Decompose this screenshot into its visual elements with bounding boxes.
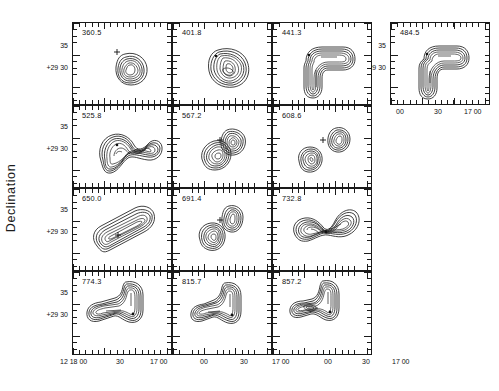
panel-691-4[interactable]: 691.4 xyxy=(172,188,272,271)
panel-815-7[interactable]: 815.7 xyxy=(172,271,272,355)
tick-marks-bottom-major xyxy=(73,98,171,104)
panel-567-2[interactable]: 567.2 xyxy=(172,105,272,188)
tick-marks-left-major xyxy=(173,23,180,104)
panel-label: 774.3 xyxy=(82,277,102,286)
panel-label: 484.5 xyxy=(400,28,420,37)
reference-dot-marker xyxy=(231,314,234,317)
reference-dot-marker xyxy=(132,313,135,316)
tick-marks-right-major xyxy=(364,106,371,187)
tick-marks-left-major xyxy=(273,189,280,270)
panel-label: 650.0 xyxy=(82,194,102,203)
tick-marks-right xyxy=(267,189,271,270)
reference-dot-marker xyxy=(308,54,311,57)
contour-lines xyxy=(294,210,360,241)
y-tick-label-35: 35 xyxy=(60,42,68,49)
reference-cross-marker xyxy=(217,137,223,143)
x-tick-label-30: 30 xyxy=(240,358,248,365)
reference-cross-marker xyxy=(320,137,326,143)
tick-marks-bottom-major xyxy=(273,348,371,354)
tick-marks-bottom-major xyxy=(273,98,371,104)
tick-marks-right xyxy=(267,272,271,354)
reference-dot-marker xyxy=(215,55,218,58)
tick-marks-left-major xyxy=(273,106,280,187)
panel-label: 857.2 xyxy=(282,277,302,286)
contour-lines xyxy=(94,206,155,252)
panel-label: 525.8 xyxy=(82,111,102,120)
tick-marks-right xyxy=(167,106,171,187)
panel-525-8[interactable]: 525.8 xyxy=(72,105,172,188)
tick-marks-left-major xyxy=(273,23,280,104)
x-tick-label-00: 00 xyxy=(396,108,404,115)
tick-marks-right xyxy=(167,189,171,270)
tick-marks-bottom-major xyxy=(73,181,171,187)
y-tick-label-29-30: +29 30 xyxy=(46,64,68,71)
panel-608-6[interactable]: 608.6 xyxy=(272,105,372,188)
panel-857-2[interactable]: 857.2 xyxy=(272,271,372,355)
tick-marks-bottom-major xyxy=(173,98,271,104)
tick-marks-left-major xyxy=(173,272,180,354)
channel-map-figure: Declination 35 +29 30 35 +29 30 35 +29 3… xyxy=(0,0,499,391)
tick-marks-right xyxy=(167,23,171,104)
y-tick-label-35: 35 xyxy=(378,42,386,49)
tick-marks-left-major xyxy=(391,23,398,104)
tick-marks-left-major xyxy=(73,189,80,270)
panel-label: 691.4 xyxy=(182,194,202,203)
panel-650-0[interactable]: 650.0 xyxy=(72,188,172,271)
x-axis-labels-panel-4: 00 30 17 00 xyxy=(390,108,490,120)
panel-label: 608.6 xyxy=(282,111,302,120)
y-tick-label-35: 35 xyxy=(60,123,68,130)
x-tick-label-00: 00 xyxy=(324,358,332,365)
y-tick-labels-row-3: 35 +29 30 xyxy=(22,188,68,271)
tick-marks-right-major xyxy=(364,272,371,354)
panel-401-8[interactable]: 401.8 xyxy=(172,22,272,105)
x-tick-label-17-00: 17 00 xyxy=(272,358,290,365)
panel-441-3[interactable]: 441.3 xyxy=(272,22,372,105)
contour-lines xyxy=(290,281,339,321)
x-axis-labels-main: 12 18 00 30 17 00 00 30 17 00 00 30 17 0… xyxy=(72,358,372,370)
y-tick-labels-row-1: 35 +29 30 xyxy=(22,22,68,105)
x-tick-label-17-00: 17 00 xyxy=(392,358,410,365)
panel-label: 441.3 xyxy=(282,28,302,37)
y-tick-label-35: 35 xyxy=(60,289,68,296)
contour-lines xyxy=(87,282,143,323)
panel-label: 360.5 xyxy=(82,28,102,37)
tick-marks-bottom-major xyxy=(273,181,371,187)
tick-marks-left-major xyxy=(173,189,180,270)
panel-774-3[interactable]: 774.3 xyxy=(72,271,172,355)
tick-marks-bottom-major xyxy=(173,181,271,187)
panel-484-5[interactable]: 484.5 xyxy=(390,22,490,105)
panel-732-8[interactable]: 732.8 xyxy=(272,188,372,271)
tick-marks-bottom-major xyxy=(173,264,271,270)
tick-marks-left-major xyxy=(73,23,80,104)
contour-lines xyxy=(191,283,241,324)
tick-marks-right-major xyxy=(364,189,371,270)
x-tick-label-30: 30 xyxy=(116,358,124,365)
reference-dot-marker xyxy=(426,53,429,56)
x-tick-label-12-18-00: 12 18 00 xyxy=(60,358,87,365)
reference-cross-marker xyxy=(114,49,120,55)
y-tick-labels-row-4: 35 +29 30 xyxy=(22,271,68,355)
y-tick-labels-row-2: 35 +29 30 xyxy=(22,105,68,188)
contour-lines xyxy=(208,49,248,88)
tick-marks-right xyxy=(167,272,171,354)
y-tick-label-35: 35 xyxy=(60,206,68,213)
contour-lines xyxy=(299,128,350,173)
x-tick-label-17-00: 17 00 xyxy=(464,108,482,115)
tick-marks-bottom-major xyxy=(73,264,171,270)
tick-marks-bottom-major xyxy=(273,264,371,270)
panel-label: 567.2 xyxy=(182,111,202,120)
contour-lines xyxy=(116,53,147,85)
panel-label: 732.8 xyxy=(282,194,302,203)
y-tick-label-29-30: +29 30 xyxy=(46,311,68,318)
panel-grid: 360.5 4 xyxy=(72,22,372,355)
tick-marks-right xyxy=(485,23,489,104)
tick-marks-left-major xyxy=(273,272,280,354)
tick-marks-left-major xyxy=(73,106,80,187)
tick-marks-bottom-major xyxy=(173,348,271,354)
reference-dot-marker xyxy=(325,231,328,234)
panel-360-5[interactable]: 360.5 xyxy=(72,22,172,105)
y-tick-label-29-30: +29 30 xyxy=(46,228,68,235)
reference-dot-marker xyxy=(116,144,119,147)
x-tick-label-17-00: 17 00 xyxy=(150,358,168,365)
x-tick-label-30: 30 xyxy=(434,108,442,115)
